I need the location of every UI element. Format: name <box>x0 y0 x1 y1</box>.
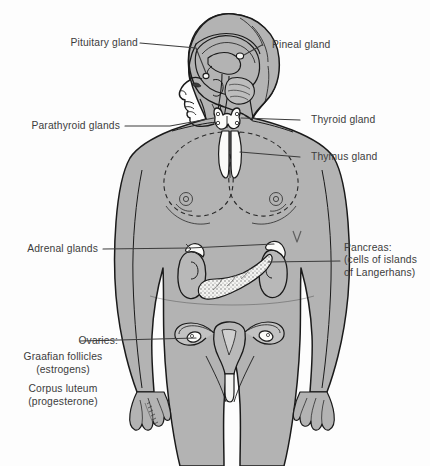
label-ovaries: Ovaries: Graafian follicles (estrogens) … <box>4 335 122 408</box>
label-pineal-gland: Pineal gland <box>272 39 330 51</box>
pineal-gland-organ <box>236 53 243 59</box>
label-ovaries-line3: (estrogens) <box>4 364 122 376</box>
label-pancreas: Pancreas: (cells of islands of Langerhan… <box>344 242 417 279</box>
endocrine-system-diagram: Pituitary gland Pineal gland Parathyroid… <box>0 0 430 466</box>
head-profile <box>179 14 279 127</box>
label-parathyroid-glands-text: Parathyroid glands <box>31 120 120 131</box>
label-pituitary-gland-text: Pituitary gland <box>70 37 138 48</box>
label-pineal-gland-text: Pineal gland <box>272 39 330 50</box>
label-adrenal-glands-text: Adrenal glands <box>27 243 98 254</box>
label-ovaries-line5: (progesterone) <box>4 396 122 408</box>
label-pancreas-line3: of Langerhans) <box>344 267 417 279</box>
label-thymus-gland-text: Thymus gland <box>311 151 377 162</box>
label-ovaries-line2: Graafian follicles <box>4 351 122 363</box>
label-pancreas-line1: Pancreas: <box>344 242 417 254</box>
label-ovaries-line1: Ovaries: <box>4 335 122 347</box>
label-parathyroid-glands: Parathyroid glands <box>12 120 120 132</box>
thymus-gland-organ <box>219 131 242 178</box>
pituitary-gland-organ <box>203 73 209 78</box>
label-pancreas-line2: (cells of islands <box>344 254 417 266</box>
label-thyroid-gland: Thyroid gland <box>311 114 375 126</box>
label-ovaries-line4: Corpus luteum <box>4 383 122 395</box>
label-thymus-gland: Thymus gland <box>311 151 377 163</box>
label-thyroid-gland-text: Thyroid gland <box>311 114 375 125</box>
label-pituitary-gland: Pituitary gland <box>30 37 138 49</box>
label-adrenal-glands: Adrenal glands <box>12 243 98 255</box>
